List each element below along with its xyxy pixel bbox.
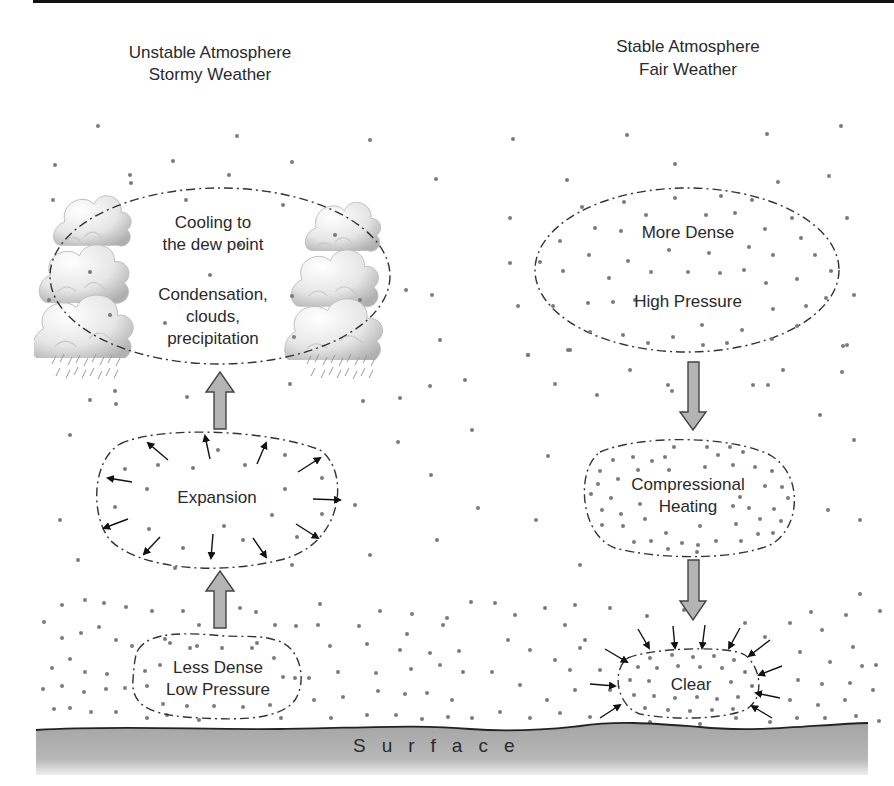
heating-label: Heating <box>659 497 718 516</box>
down-arrow-upper <box>680 362 706 430</box>
high-pressure-label: High Pressure <box>634 292 742 311</box>
expansion-label: Expansion <box>177 488 256 507</box>
cooling-label-line1: Cooling to <box>175 213 252 232</box>
surface-label: Surface <box>353 735 530 756</box>
high-pressure-zone <box>526 188 845 357</box>
surface-air-molecules <box>41 592 882 727</box>
condensation-label-line3: precipitation <box>167 329 259 348</box>
low-pressure-label: Low Pressure <box>166 680 270 699</box>
clear-label: Clear <box>671 675 712 694</box>
cooling-label-line2: the dew point <box>162 235 263 254</box>
right-heading-line1: Stable Atmosphere <box>616 37 760 56</box>
storm-cloud-right <box>285 202 383 379</box>
left-heading-line1: Unstable Atmosphere <box>129 43 292 62</box>
compressional-label: Compressional <box>631 475 744 494</box>
top-rule <box>33 0 894 3</box>
atmosphere-stability-diagram: Unstable Atmosphere Stormy Weather Stabl… <box>0 0 894 786</box>
condensation-label-line1: Condensation, <box>158 285 268 304</box>
condensation-label-line2: clouds, <box>186 307 240 326</box>
left-heading-line2: Stormy Weather <box>149 65 272 84</box>
right-heading-line2: Fair Weather <box>639 60 737 79</box>
up-arrow-upper <box>206 372 234 429</box>
more-dense-label: More Dense <box>642 223 735 242</box>
less-dense-label: Less Dense <box>173 658 263 677</box>
up-arrow-lower <box>206 571 234 628</box>
